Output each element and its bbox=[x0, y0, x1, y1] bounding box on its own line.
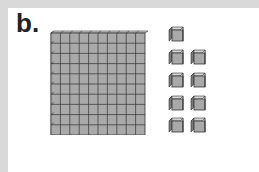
unit-cube bbox=[168, 49, 184, 65]
unit-cube bbox=[168, 95, 184, 111]
unit-cube bbox=[190, 49, 206, 65]
unit-cube bbox=[190, 117, 206, 133]
hundreds-flat-block bbox=[50, 27, 150, 135]
unit-cube bbox=[190, 95, 206, 111]
unit-cube bbox=[168, 26, 184, 42]
unit-cube bbox=[168, 72, 184, 88]
figure-label: b. bbox=[16, 10, 39, 36]
unit-cube bbox=[190, 72, 206, 88]
unit-cube bbox=[168, 117, 184, 133]
